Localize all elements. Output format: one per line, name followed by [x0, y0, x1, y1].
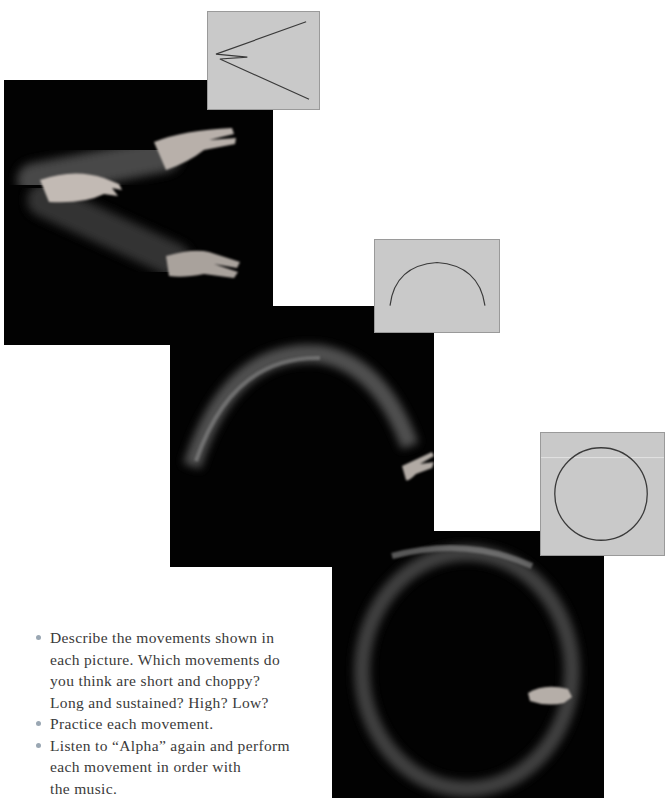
- instruction-line: you think are short and choppy?: [50, 670, 336, 692]
- circle-icon: [541, 433, 664, 555]
- instruction-item-practice: Practice each movement.: [36, 713, 336, 735]
- instruction-line: Practice each movement.: [50, 713, 336, 735]
- instruction-item-describe: Describe the movements shown in each pic…: [36, 627, 336, 713]
- bullet-icon: [36, 743, 41, 748]
- instruction-line: the music.: [50, 778, 336, 800]
- hand-motion-arc-image: [170, 306, 434, 567]
- arc-icon: [375, 240, 499, 332]
- instruction-line: each picture. Which movements do: [50, 649, 336, 671]
- bullet-icon: [36, 635, 41, 640]
- zigzag-icon: [208, 12, 319, 109]
- hand-motion-circle-image: [332, 531, 604, 798]
- bullet-icon: [36, 721, 41, 726]
- instruction-line: Long and sustained? High? Low?: [50, 692, 336, 714]
- diagram-card-arc: [374, 239, 500, 333]
- instruction-line: each movement in order with: [50, 756, 336, 778]
- diagram-card-circle: [540, 432, 665, 556]
- diagram-card-zigzag: [207, 11, 320, 110]
- instruction-item-listen: Listen to “Alpha” again and perform each…: [36, 735, 336, 800]
- instruction-line: Listen to “Alpha” again and perform: [50, 735, 336, 757]
- photo-arc-motion: [170, 306, 434, 567]
- instruction-list: Describe the movements shown in each pic…: [36, 627, 336, 799]
- instruction-line: Describe the movements shown in: [50, 627, 336, 649]
- photo-circle-motion: [332, 531, 604, 798]
